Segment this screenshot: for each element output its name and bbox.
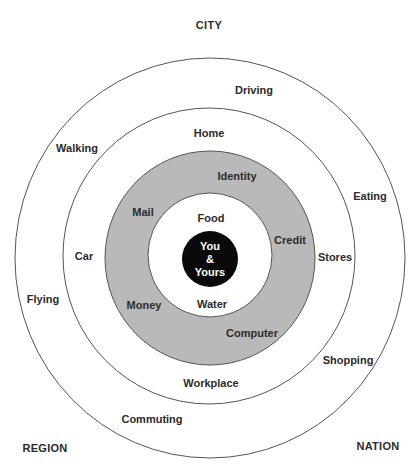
label-money: Money [127,300,162,311]
concentric-circles-diagram [0,0,417,468]
label-nation: NATION [356,441,399,452]
label-flying: Flying [27,294,59,305]
label-food: Food [198,213,225,224]
label-mail: Mail [132,207,153,218]
label-eating: Eating [353,191,387,202]
label-water: Water [197,299,227,310]
center-line-you: You [195,240,225,253]
label-car: Car [75,251,93,262]
label-commuting: Commuting [121,414,182,425]
label-stores: Stores [318,252,352,263]
center-line-ampersand: & [195,253,225,266]
label-shopping: Shopping [323,355,374,366]
label-computer: Computer [226,328,278,339]
label-workplace: Workplace [183,378,238,389]
center-label: You & Yours [195,240,225,279]
label-walking: Walking [56,143,98,154]
label-home: Home [194,128,225,139]
label-city: CITY [196,20,222,31]
label-credit: Credit [274,235,306,246]
label-identity: Identity [217,171,256,182]
label-region: REGION [22,443,67,454]
center-line-yours: Yours [195,266,225,279]
label-driving: Driving [235,85,273,96]
